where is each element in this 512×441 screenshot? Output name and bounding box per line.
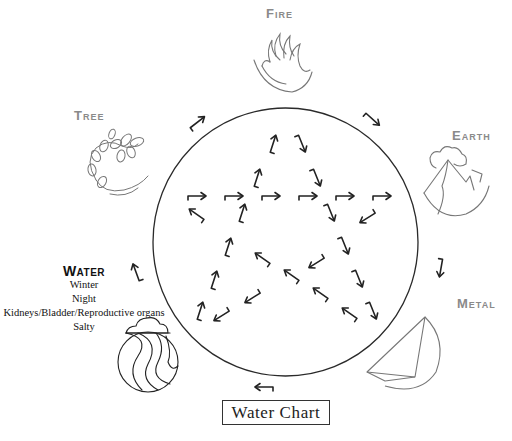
metal-label: Metal <box>457 296 496 311</box>
water-taste: Salty <box>0 320 168 334</box>
tree-icon <box>87 128 148 195</box>
water-organs: Kidneys/Bladder/Reproductive organs <box>0 306 168 320</box>
water-label: Water <box>0 264 168 278</box>
water-season: Winter <box>0 278 168 292</box>
fire-icon <box>254 34 312 92</box>
water-info: Water Winter Night Kidneys/Bladder/Repro… <box>0 264 168 334</box>
outer-arrows <box>130 111 446 391</box>
chart-title: Water Chart <box>222 400 330 425</box>
water-time: Night <box>0 292 168 306</box>
tree-label: Tree <box>74 108 104 123</box>
cycle-circle <box>153 108 418 376</box>
earth-label: Earth <box>452 128 491 143</box>
five-elements-diagram <box>0 0 512 441</box>
star-arrows <box>187 134 391 324</box>
earth-icon <box>424 147 489 216</box>
metal-icon <box>367 317 440 389</box>
fire-label: Fire <box>266 6 293 21</box>
